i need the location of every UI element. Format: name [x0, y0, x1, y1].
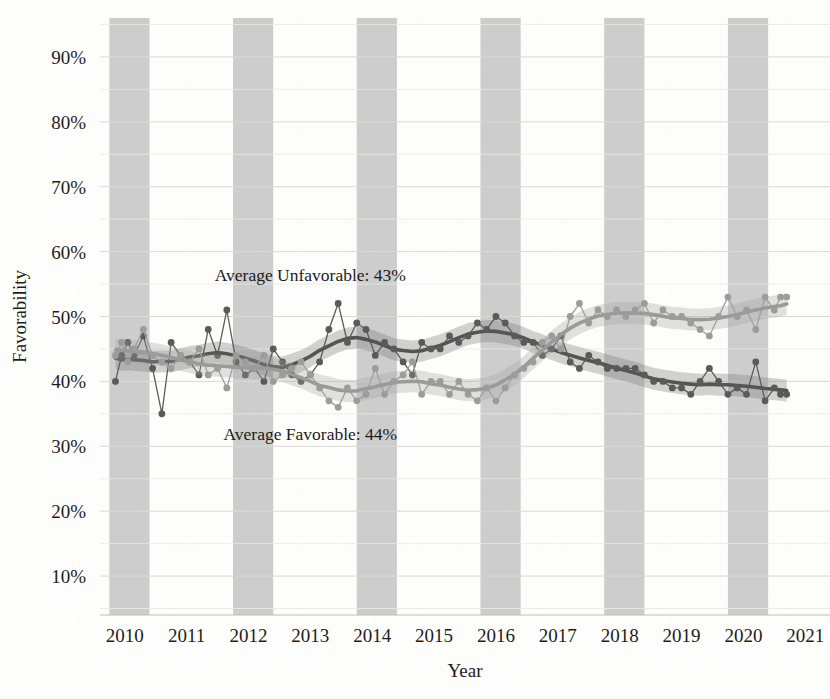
- data-point-favorable: [474, 320, 481, 327]
- data-point-favorable: [783, 391, 790, 398]
- data-point-favorable: [270, 346, 277, 353]
- data-point-favorable: [158, 410, 165, 417]
- data-point-unfavorable: [233, 352, 240, 359]
- data-point-unfavorable: [158, 359, 165, 366]
- data-point-favorable: [660, 378, 667, 385]
- data-point-unfavorable: [725, 294, 732, 301]
- y-tick-label-80: 80%: [51, 112, 86, 133]
- data-point-favorable: [149, 365, 156, 372]
- data-point-favorable: [777, 391, 784, 398]
- data-point-favorable: [567, 359, 574, 366]
- data-point-favorable: [335, 300, 342, 307]
- data-point-unfavorable: [316, 384, 323, 391]
- data-point-unfavorable: [715, 313, 722, 320]
- data-point-unfavorable: [604, 313, 611, 320]
- data-point-unfavorable: [511, 372, 518, 379]
- data-point-unfavorable: [539, 339, 546, 346]
- data-point-unfavorable: [783, 294, 790, 301]
- data-point-unfavorable: [493, 397, 500, 404]
- data-point-unfavorable: [168, 365, 175, 372]
- data-point-unfavorable: [381, 391, 388, 398]
- data-point-favorable: [576, 365, 583, 372]
- data-point-unfavorable: [242, 359, 249, 366]
- data-point-unfavorable: [400, 372, 407, 379]
- data-point-unfavorable: [455, 378, 462, 385]
- data-point-favorable: [372, 352, 379, 359]
- data-point-unfavorable: [409, 359, 416, 366]
- data-point-unfavorable: [344, 384, 351, 391]
- data-point-unfavorable: [650, 320, 657, 327]
- x-tick-label-2018: 2018: [601, 625, 639, 646]
- data-point-favorable: [326, 326, 333, 333]
- data-point-unfavorable: [474, 397, 481, 404]
- data-point-unfavorable: [660, 307, 667, 314]
- data-point-unfavorable: [112, 352, 119, 359]
- data-point-favorable: [455, 339, 462, 346]
- data-point-unfavorable: [520, 365, 527, 372]
- data-point-favorable: [363, 326, 370, 333]
- data-point-unfavorable: [771, 307, 778, 314]
- data-point-unfavorable: [502, 384, 509, 391]
- data-point-unfavorable: [251, 365, 258, 372]
- data-point-unfavorable: [641, 300, 648, 307]
- data-point-unfavorable: [261, 352, 268, 359]
- data-point-unfavorable: [186, 359, 193, 366]
- x-tick-label-2013: 2013: [291, 625, 329, 646]
- data-point-unfavorable: [585, 320, 592, 327]
- data-point-unfavorable: [279, 372, 286, 379]
- data-point-favorable: [428, 346, 435, 353]
- data-point-favorable: [400, 359, 407, 366]
- data-point-favorable: [112, 378, 119, 385]
- data-point-favorable: [437, 346, 444, 353]
- data-point-favorable: [223, 307, 230, 314]
- data-point-favorable: [669, 384, 676, 391]
- data-point-favorable: [762, 397, 769, 404]
- y-tick-label-20: 20%: [51, 501, 86, 522]
- average-unfavorable-annotation: Average Unfavorable: 43%: [215, 265, 406, 285]
- data-point-favorable: [613, 365, 620, 372]
- data-point-favorable: [205, 326, 212, 333]
- x-tick-label-2019: 2019: [663, 625, 701, 646]
- data-point-unfavorable: [353, 397, 360, 404]
- data-point-favorable: [344, 339, 351, 346]
- data-point-unfavorable: [372, 365, 379, 372]
- data-point-favorable: [446, 333, 453, 340]
- x-tick-label-2015: 2015: [415, 625, 453, 646]
- data-point-unfavorable: [437, 378, 444, 385]
- data-point-unfavorable: [214, 365, 221, 372]
- data-point-favorable: [511, 333, 518, 340]
- data-point-favorable: [483, 326, 490, 333]
- data-point-unfavorable: [196, 346, 203, 353]
- data-point-favorable: [706, 365, 713, 372]
- data-point-favorable: [641, 372, 648, 379]
- data-point-unfavorable: [530, 359, 537, 366]
- data-point-unfavorable: [706, 333, 713, 340]
- y-tick-label-70: 70%: [51, 177, 86, 198]
- data-point-unfavorable: [548, 333, 555, 340]
- x-tick-label-2014: 2014: [353, 625, 392, 646]
- data-point-unfavorable: [288, 365, 295, 372]
- data-point-unfavorable: [669, 313, 676, 320]
- average-favorable-annotation: Average Favorable: 44%: [224, 424, 398, 444]
- data-point-favorable: [771, 384, 778, 391]
- data-point-favorable: [520, 339, 527, 346]
- data-point-favorable: [743, 391, 750, 398]
- data-point-unfavorable: [762, 294, 769, 301]
- data-point-unfavorable: [205, 372, 212, 379]
- data-point-favorable: [381, 339, 388, 346]
- data-point-unfavorable: [326, 397, 333, 404]
- data-point-unfavorable: [390, 378, 397, 385]
- x-tick-label-2010: 2010: [106, 625, 144, 646]
- data-point-unfavorable: [777, 294, 784, 301]
- data-point-favorable: [650, 378, 657, 385]
- data-point-unfavorable: [567, 313, 574, 320]
- data-point-favorable: [530, 339, 537, 346]
- x-tick-label-2016: 2016: [477, 625, 515, 646]
- data-point-unfavorable: [697, 326, 704, 333]
- data-point-favorable: [604, 365, 611, 372]
- data-point-unfavorable: [752, 326, 759, 333]
- data-point-favorable: [585, 352, 592, 359]
- data-point-favorable: [390, 346, 397, 353]
- data-point-favorable: [465, 333, 472, 340]
- x-tick-label-2011: 2011: [168, 625, 205, 646]
